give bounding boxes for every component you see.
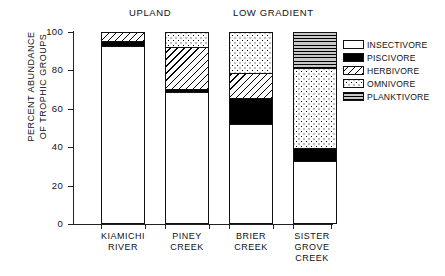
bar-piney-creek[interactable] [165,32,209,224]
legend: INSECTIVORE PISCIVORE HERBIVORE OMNIVORE… [343,38,443,103]
x-axis-label-piney-creek: PINEY CREEK [150,231,224,253]
x-axis-label-line2: GROVE [275,242,349,253]
x-tick-3-right [273,224,274,229]
x-tick-1-right [145,224,146,229]
x-axis-label-line1: SISTER [275,231,349,242]
segment-insectivore [102,46,144,224]
x-axis-label-line1: PINEY [150,231,224,242]
herbivore-swatch-icon [343,66,364,75]
insectivore-swatch-icon [343,40,364,49]
y-tick-label-80: 80 [33,64,63,75]
omnivore-swatch-icon [343,79,364,88]
legend-label: PISCIVORE [367,53,416,63]
group-header-low-gradient: LOW GRADIENT [233,7,314,18]
legend-item-insectivore[interactable]: INSECTIVORE [343,38,443,51]
x-tick-4-right [331,224,332,229]
trophic-groups-stacked-bar-chart: UPLAND LOW GRADIENT PERCENT ABUNDANCE OF… [0,0,445,276]
legend-item-omnivore[interactable]: OMNIVORE [343,77,443,90]
bar-kiamichi-river[interactable] [101,32,145,224]
segment-piscivore [294,148,336,160]
x-tick-4-left [293,224,294,229]
x-axis-label-line3: CREEK [275,253,349,264]
legend-item-herbivore[interactable]: HERBIVORE [343,64,443,77]
y-tick-label-100: 100 [33,26,63,37]
x-tick-2-left [165,224,166,229]
piscivore-swatch-icon [343,53,364,62]
y-tick-label-0: 0 [33,218,63,229]
bar-brier-creek[interactable] [229,32,273,224]
segment-insectivore [230,124,272,224]
legend-item-piscivore[interactable]: PISCIVORE [343,51,443,64]
x-tick-2-right [209,224,210,229]
planktivore-swatch-icon [343,92,364,101]
plot-area [73,32,328,224]
segment-omnivore [230,33,272,73]
x-axis-label-line2: RIVER [86,242,160,253]
segment-herbivore [166,47,208,88]
y-tick-label-20: 20 [33,180,63,191]
segment-herbivore [102,33,144,41]
group-header-upland: UPLAND [129,7,171,18]
segment-piscivore [230,98,272,124]
segment-omnivore [294,68,336,149]
legend-label: OMNIVORE [367,79,415,89]
legend-label: INSECTIVORE [367,40,427,50]
segment-insectivore [294,161,336,224]
legend-item-planktivore[interactable]: PLANKTIVORE [343,90,443,103]
y-tick-0 [68,224,73,225]
x-axis-label-line1: KIAMICHI [86,231,160,242]
segment-planktivore [294,33,336,68]
bar-sister-grove-creek[interactable] [293,32,337,224]
x-tick-1-left [101,224,102,229]
y-tick-label-60: 60 [33,103,63,114]
segment-herbivore [230,73,272,98]
x-axis-label-sister-grove-creek: SISTER GROVE CREEK [275,231,349,264]
legend-label: HERBIVORE [367,66,419,76]
x-tick-3-left [229,224,230,229]
segment-insectivore [166,92,208,224]
segment-omnivore [166,33,208,47]
y-tick-label-40: 40 [33,141,63,152]
legend-label: PLANKTIVORE [367,92,429,102]
x-axis-label-line2: CREEK [150,242,224,253]
x-axis-label-kiamichi-river: KIAMICHI RIVER [86,231,160,253]
